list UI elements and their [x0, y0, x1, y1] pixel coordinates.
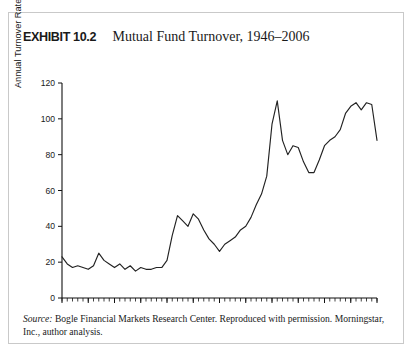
y-tick-label: 120 [41, 78, 56, 88]
exhibit-figure: EXHIBIT 10.2Mutual Fund Turnover, 1946–2… [8, 12, 404, 344]
source-note: Source: Bogle Financial Markets Research… [23, 313, 389, 338]
y-tick-label: 0 [50, 293, 55, 303]
y-axis-ticks: 020406080100120 [41, 78, 62, 303]
y-axis-label: Annual Turnover Rate (%) [13, 0, 23, 105]
y-tick-label: 20 [45, 257, 55, 267]
page-title: Mutual Fund Turnover, 1946–2006 [112, 29, 309, 44]
y-tick-label: 100 [41, 114, 56, 124]
y-tick-label: 80 [45, 150, 55, 160]
figure-title-bar: EXHIBIT 10.2Mutual Fund Turnover, 1946–2… [23, 27, 393, 49]
source-prefix: Source: [23, 313, 52, 324]
chart-plot-area: Annual Turnover Rate (%) 020406080100120… [9, 53, 405, 305]
source-text: Bogle Financial Markets Research Center.… [23, 313, 384, 337]
turnover-series-line [62, 101, 377, 271]
y-tick-label: 60 [45, 186, 55, 196]
exhibit-number-label: EXHIBIT 10.2 [23, 29, 96, 44]
y-tick-label: 40 [45, 221, 55, 231]
x-axis-ticks: 1946195119561961196619711976198119861991… [53, 298, 387, 305]
turnover-line-chart: 020406080100120 194619511956196119661971… [9, 53, 405, 305]
